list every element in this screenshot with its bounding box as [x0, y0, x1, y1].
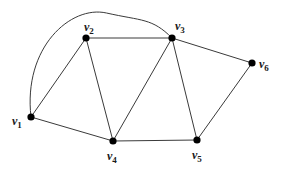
edge-v3-v5: [172, 38, 197, 140]
vertex-label-v6: v6: [259, 57, 269, 73]
edge-v4-v5: [113, 140, 197, 141]
edge-v2-v4: [86, 38, 113, 141]
vertex-v3: [168, 34, 175, 41]
edge-v1-v4: [31, 117, 113, 141]
edge-v3-v4: [113, 38, 172, 141]
vertices-layer: [27, 34, 255, 144]
vertex-v4: [109, 137, 116, 144]
graph-canvas: v1v2v3v4v5v6: [0, 0, 284, 176]
vertex-label-v2: v2: [84, 20, 94, 36]
vertex-v5: [193, 136, 200, 143]
vertex-label-v4: v4: [107, 149, 117, 165]
vertex-v1: [27, 113, 34, 120]
edge-v5-v6: [197, 63, 252, 140]
edge-v1-v3: [30, 12, 172, 117]
vertex-v6: [248, 59, 255, 66]
edge-v3-v6: [172, 38, 252, 63]
vertex-label-v3: v3: [175, 19, 185, 35]
edges-layer: [30, 12, 252, 141]
edge-v1-v2: [31, 38, 86, 117]
vertex-label-v5: v5: [192, 148, 202, 164]
graph-diagram: v1v2v3v4v5v6: [0, 0, 284, 176]
vertex-label-v1: v1: [12, 114, 22, 130]
